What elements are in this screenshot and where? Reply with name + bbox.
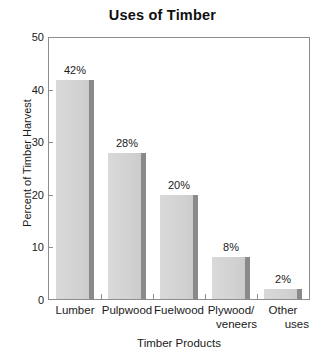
bar-chart-figure: Uses of Timber Percent of Timber Harvest… — [0, 0, 325, 356]
chart-title: Uses of Timber — [0, 7, 325, 23]
x-axis-category-line: Pulpwood — [101, 303, 153, 317]
x-axis-category-line: uses — [257, 317, 309, 331]
bar-value-label: 2% — [253, 273, 313, 285]
bar — [264, 38, 302, 299]
bar — [56, 38, 94, 299]
x-axis-title: Timber Products — [48, 337, 310, 349]
y-axis-tick-label: 50 — [4, 31, 44, 43]
bar — [108, 38, 146, 299]
bar-value-label: 28% — [97, 137, 157, 149]
x-axis-category-line: Fuelwood — [153, 303, 205, 317]
bar — [212, 38, 250, 299]
x-axis-tick-mark — [205, 294, 206, 299]
bar — [160, 38, 198, 299]
x-axis-category-label: Fuelwood — [153, 303, 205, 317]
bar-shadow-edge — [297, 289, 302, 299]
x-axis-category-label: Otheruses — [257, 303, 309, 331]
x-axis-category-line: Other — [257, 303, 309, 317]
bar-shadow-edge — [89, 80, 94, 299]
bar-shadow-edge — [193, 195, 198, 299]
x-axis-tick-mark — [257, 294, 258, 299]
y-axis-tick-label: 20 — [4, 189, 44, 201]
x-axis-category-line: Lumber — [49, 303, 101, 317]
x-axis-category-line: Plywood/ — [205, 303, 257, 317]
bar-value-label: 8% — [201, 241, 261, 253]
y-axis-tick-label: 30 — [4, 136, 44, 148]
x-axis-category-line: veneers — [205, 317, 257, 331]
y-axis-tick-label: 10 — [4, 241, 44, 253]
x-axis-tick-mark — [153, 294, 154, 299]
x-axis-category-label: Lumber — [49, 303, 101, 317]
bar-shadow-edge — [141, 153, 146, 299]
bar-value-label: 42% — [45, 64, 105, 76]
bar-shadow-edge — [245, 257, 250, 299]
y-axis-tick-label: 0 — [4, 294, 44, 306]
x-axis-category-label: Plywood/veneers — [205, 303, 257, 331]
x-axis-category-label: Pulpwood — [101, 303, 153, 317]
y-axis-tick-label: 40 — [4, 84, 44, 96]
bar-value-label: 20% — [149, 179, 209, 191]
bars-group: 42%28%20%8%2% — [49, 38, 309, 299]
x-axis-tick-mark — [101, 294, 102, 299]
